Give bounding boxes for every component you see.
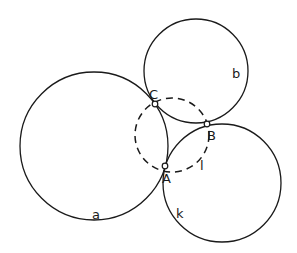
point-label-B: B [207,128,216,143]
circle-label-l: l [200,158,204,173]
point-B [204,121,210,127]
circle-label-b: b [232,66,240,81]
point-label-A: A [162,171,171,186]
point-label-C: C [149,87,158,102]
circle-label-a: a [92,207,100,222]
circle-a [20,72,168,220]
circles [20,19,281,242]
circle-l [135,98,209,172]
labels: abklABC [92,66,240,222]
point-A [162,163,168,169]
point-C [152,101,158,107]
circle-label-k: k [176,206,184,221]
geometry-diagram: abklABC [0,0,297,253]
circle-k [163,124,281,242]
